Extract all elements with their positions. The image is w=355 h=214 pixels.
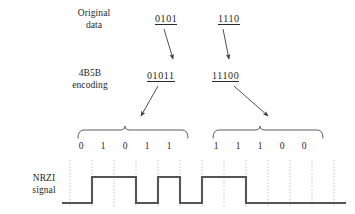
brace-bit-group-2 [213,126,323,138]
arrow-encoded-to-bits-1 [141,86,158,116]
arrow-original-to-encoded-1 [164,29,173,59]
brace-bit-group-1 [78,126,188,138]
figure-canvas: Original data 4B5B encoding NRZI signal … [0,0,355,214]
arrow-encoded-to-bits-2 [234,86,268,116]
nrzi-waveform [62,177,346,203]
figure-vector-layer [0,0,355,214]
arrow-original-to-encoded-2 [223,29,229,59]
